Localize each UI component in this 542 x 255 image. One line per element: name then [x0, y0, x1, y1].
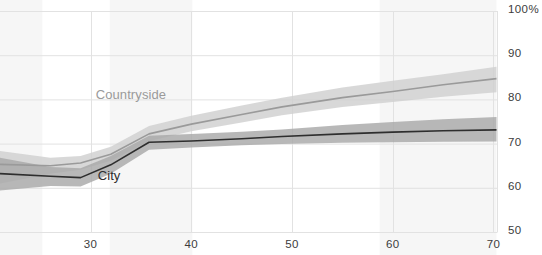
x-tick-label-60: 60 — [386, 238, 400, 250]
series-label-countryside: Countryside — [96, 87, 166, 102]
y-tick-label-80: 80 — [508, 91, 522, 103]
x-tick-label-30: 30 — [84, 238, 98, 250]
x-tick-label-40: 40 — [185, 238, 199, 250]
series-label-city: City — [98, 168, 121, 183]
y-tick-label-60: 60 — [508, 180, 522, 192]
y-tick-label-70: 70 — [508, 136, 522, 148]
chart-container: 100%9080706050 3040506070 Countryside Ci… — [0, 0, 542, 255]
y-tick-label-50: 50 — [508, 224, 522, 236]
y-tick-label-100: 100% — [508, 3, 539, 15]
y-tick-label-90: 90 — [508, 47, 522, 59]
x-tick-label-70: 70 — [487, 238, 501, 250]
x-tick-label-50: 50 — [285, 238, 299, 250]
shaded-region — [0, 0, 42, 255]
line-chart-plot — [0, 0, 542, 255]
